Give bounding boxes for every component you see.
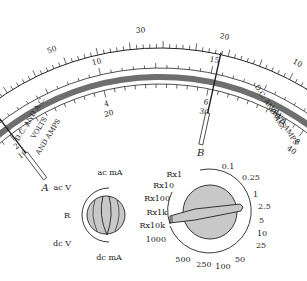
range-option: 50 xyxy=(235,255,245,264)
range-option: 10 xyxy=(257,229,267,238)
volts-tick xyxy=(89,75,90,78)
inner-tick xyxy=(114,88,115,92)
volts-tick xyxy=(36,96,37,99)
volts-tick xyxy=(304,108,306,111)
inner-tick xyxy=(217,91,218,95)
inner-tick xyxy=(197,87,198,91)
ohms-tick-label: 30 xyxy=(135,25,145,35)
ohms-tick xyxy=(40,70,42,74)
inner-tick xyxy=(256,104,258,108)
inner-tick xyxy=(36,117,38,120)
needle-shaft xyxy=(199,113,210,145)
inner-tick xyxy=(64,103,66,107)
ohms-tick xyxy=(28,76,30,80)
range-option: 100 xyxy=(215,262,230,271)
ohms-tick-label: 10 xyxy=(291,57,304,69)
volts-tick xyxy=(275,92,276,95)
ohms-tick xyxy=(3,87,7,93)
ohms-tick xyxy=(16,83,18,86)
range-option: 0.25 xyxy=(242,173,260,182)
ohms-tick xyxy=(64,57,66,64)
ohms-tick xyxy=(71,58,72,62)
ohms-tick xyxy=(103,50,104,54)
ohms-tick xyxy=(46,68,48,72)
ohms-tick xyxy=(22,79,24,83)
function-option: dc mA xyxy=(96,253,122,262)
volts-tick xyxy=(264,85,266,90)
range-option: 250 xyxy=(196,260,211,269)
range-switch[interactable]: Rx1Rx10Rx100Rx1kRx10k1000500250100502510… xyxy=(139,162,270,271)
ohms-tick-label: 20 xyxy=(219,31,230,42)
volts-tick xyxy=(285,97,286,100)
inner-tick xyxy=(104,90,106,97)
inner-tick xyxy=(125,87,126,91)
inner-tick xyxy=(247,100,248,104)
ohms-tick xyxy=(241,56,242,60)
ohms-tick xyxy=(90,53,91,57)
ohms-tick xyxy=(52,65,54,69)
ohms-tick xyxy=(266,65,267,69)
range-ohm-option: Rx1k xyxy=(147,208,168,217)
ohms-tick xyxy=(11,86,13,89)
function-switch[interactable]: ac mAac VRdc Vdc mA xyxy=(53,168,125,262)
volts-tick xyxy=(27,101,29,104)
range-option: 500 xyxy=(175,255,190,264)
range-option: 5 xyxy=(259,216,264,225)
function-option: dc V xyxy=(53,239,71,248)
ohms-tick xyxy=(78,56,79,60)
ohms-tick xyxy=(260,60,262,67)
range-option: 2.5 xyxy=(258,202,271,211)
function-option: ac mA xyxy=(97,168,122,177)
ohms-tick xyxy=(228,50,230,57)
inner-tick xyxy=(45,112,47,116)
range-option: 1000 xyxy=(146,235,166,244)
inner-tick xyxy=(300,130,304,136)
ohms-tick xyxy=(129,43,130,50)
ohms-tick xyxy=(0,93,2,96)
needle-shaft xyxy=(24,152,47,180)
volts-tick xyxy=(294,102,296,105)
inner-tick xyxy=(74,100,75,104)
ohms-tick xyxy=(290,73,293,79)
range-ohm-option: Rx100 xyxy=(144,194,170,203)
needle-label: A xyxy=(41,182,49,193)
volts-tick xyxy=(8,113,10,115)
volts-tick xyxy=(99,68,101,75)
range-ohm-option: Rx10k xyxy=(139,221,165,230)
ohms-tick xyxy=(59,63,60,67)
inner-tick xyxy=(2,142,5,145)
ohms-tick xyxy=(96,48,98,55)
ohms-tick xyxy=(295,79,297,83)
range-option: 25 xyxy=(256,241,266,250)
volts-tick xyxy=(78,78,79,81)
ohms-tick xyxy=(110,48,111,52)
ohms-tick xyxy=(196,43,197,50)
ohms-tick xyxy=(215,50,216,54)
range-option: 1 xyxy=(253,190,258,199)
ohms-tick xyxy=(209,48,210,52)
ohms-tick xyxy=(284,73,286,77)
inner-tick xyxy=(94,93,95,97)
volts-tick xyxy=(211,66,212,73)
inner-tick xyxy=(237,97,238,101)
function-option: R xyxy=(64,211,71,220)
volts-tick xyxy=(57,86,58,89)
inner-tick xyxy=(293,124,295,127)
inner-tick xyxy=(84,96,85,100)
volts-tick xyxy=(67,82,68,85)
ohms-tick xyxy=(33,70,36,76)
volts-tick xyxy=(244,79,245,82)
ohms-tick xyxy=(247,58,248,62)
ohms-tick xyxy=(253,60,254,64)
volts-scale-label: 10 xyxy=(91,56,103,67)
range-ohm-option: Rx10 xyxy=(153,181,174,190)
inner-tick xyxy=(207,89,208,96)
inner-scale-label: 6 xyxy=(203,97,210,107)
ohms-tick xyxy=(123,46,124,50)
ohms-tick-label: 50 xyxy=(46,44,58,56)
inner-scale-label-50: 20 xyxy=(103,108,115,119)
inner-scale-label: 4 xyxy=(103,99,110,109)
inner-tick xyxy=(55,108,57,112)
ohms-tick xyxy=(235,54,236,58)
volts-tick xyxy=(46,89,48,94)
